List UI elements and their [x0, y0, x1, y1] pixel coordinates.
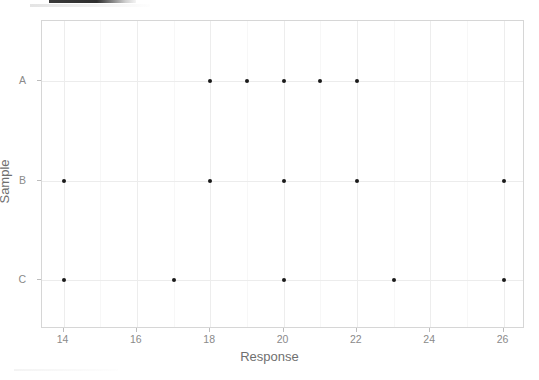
gridline-vertical-minor	[247, 21, 248, 327]
scan-artifact-top-smudge	[30, 4, 150, 7]
x-axis-tick	[356, 328, 357, 332]
data-point	[355, 79, 359, 83]
data-point	[502, 278, 506, 282]
scan-artifact-bottom-smudge	[14, 369, 118, 371]
x-axis-tick-label: 14	[57, 333, 69, 345]
data-point	[172, 278, 176, 282]
gridline-vertical-major	[430, 21, 431, 327]
data-point	[282, 179, 286, 183]
x-axis-tick-label: 18	[203, 333, 215, 345]
x-axis-tick	[429, 328, 430, 332]
data-point	[208, 79, 212, 83]
data-point	[282, 79, 286, 83]
gridline-vertical-minor	[100, 21, 101, 327]
chart-figure: 14161820222426ABC Response Sample	[0, 0, 539, 380]
y-axis-tick-label: A	[19, 74, 26, 86]
y-axis-tick	[37, 279, 41, 280]
x-axis-tick-label: 20	[277, 333, 289, 345]
data-point	[392, 278, 396, 282]
scan-artifact-top-bar	[49, 0, 136, 3]
gridline-vertical-major	[137, 21, 138, 327]
y-axis-tick	[37, 80, 41, 81]
x-axis-tick	[136, 328, 137, 332]
data-point	[245, 79, 249, 83]
y-axis-tick-label: C	[18, 273, 26, 285]
x-axis-tick-label: 26	[497, 333, 509, 345]
data-point	[318, 79, 322, 83]
gridline-vertical-major	[357, 21, 358, 327]
gridline-vertical-minor	[467, 21, 468, 327]
y-axis-tick-label: B	[19, 174, 26, 186]
x-axis-tick	[209, 328, 210, 332]
y-axis-title: Sample	[0, 159, 12, 203]
gridline-vertical-minor	[320, 21, 321, 327]
x-axis-tick-label: 24	[423, 333, 435, 345]
data-point	[62, 278, 66, 282]
x-axis-tick	[503, 328, 504, 332]
data-point	[282, 278, 286, 282]
data-point	[502, 179, 506, 183]
plot-panel	[41, 20, 524, 328]
data-point	[208, 179, 212, 183]
x-axis-title: Response	[0, 349, 539, 364]
y-axis-tick	[37, 180, 41, 181]
data-point	[62, 179, 66, 183]
x-axis-tick-label: 22	[350, 333, 362, 345]
x-axis-tick	[63, 328, 64, 332]
x-axis-tick-label: 16	[130, 333, 142, 345]
x-axis-tick	[283, 328, 284, 332]
data-point	[355, 179, 359, 183]
gridline-vertical-major	[210, 21, 211, 327]
